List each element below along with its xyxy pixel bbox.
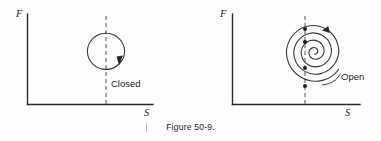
open-orbit-panel: F S Open [219, 8, 364, 118]
open-y-axis-label: F [219, 8, 227, 19]
figure-caption: Figure 50-9. [0, 122, 381, 132]
closed-orbit-arc-lower-left [87, 33, 119, 69]
phase-plane-diagram: F S Closed F S [0, 0, 381, 141]
open-state-label: Open [341, 71, 364, 82]
open-section-crossing-point-1 [303, 40, 307, 44]
open-spiral-trajectory [286, 26, 338, 82]
open-x-axis-label: S [345, 107, 351, 118]
closed-x-axis-label: S [144, 107, 150, 118]
open-section-crossing-point-4 [303, 84, 307, 88]
open-section-crossing-point-2 [303, 27, 307, 31]
closed-state-label: Closed [111, 78, 141, 89]
closed-orbit-arc-upper-right [106, 33, 125, 63]
figure-50-9: F S Closed F S [0, 0, 381, 141]
closed-y-axis-label: F [15, 8, 23, 19]
open-section-crossing-point-3 [303, 66, 307, 70]
closed-orbit-panel: F S Closed [15, 8, 153, 118]
